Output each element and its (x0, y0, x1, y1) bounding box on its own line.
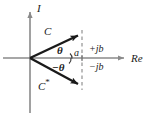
real-component-label: a (74, 48, 79, 58)
phasor-diagram-figure: I Re C C* θ −θ a +jb −jb (0, 0, 155, 121)
vector-c-label: C (44, 26, 51, 37)
angle-negative-theta-arc (69, 58, 71, 64)
negative-imaginary-component-label: −jb (89, 62, 104, 72)
imaginary-axis-label: I (37, 3, 41, 14)
positive-imaginary-component-label: +jb (89, 44, 104, 54)
angle-theta-label: θ (57, 45, 63, 56)
real-axis-label: Re (131, 53, 143, 64)
conjugate-asterisk: * (45, 77, 50, 87)
vector-c-conjugate-label: C* (38, 78, 50, 92)
angle-negative-theta-label: −θ (52, 62, 64, 73)
